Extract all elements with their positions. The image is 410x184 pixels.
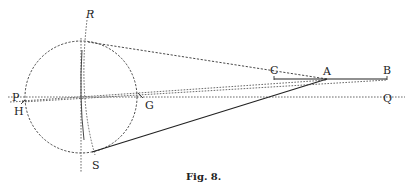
figure-caption: Fig. 8. <box>186 171 221 182</box>
label-a: A <box>322 65 332 78</box>
label-r: R <box>85 8 94 21</box>
label-q: Q <box>383 92 392 105</box>
geometric-diagram: P H R S G C A B Q Fig. 8. <box>0 0 410 184</box>
line-s-a <box>92 79 327 152</box>
label-h: H <box>14 105 24 118</box>
line-h-a <box>22 80 327 101</box>
label-c: C <box>270 64 278 77</box>
arc-r-s <box>84 20 95 155</box>
label-p: P <box>12 91 20 104</box>
line-h-b <box>22 80 387 102</box>
label-g: G <box>145 99 154 112</box>
label-b: B <box>383 64 391 77</box>
label-s: S <box>92 159 100 172</box>
